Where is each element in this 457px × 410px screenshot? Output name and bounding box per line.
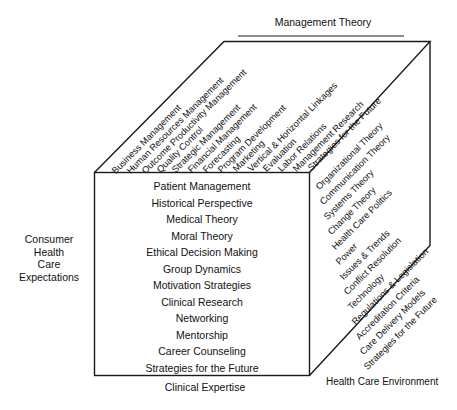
- left-caption-line-1: Consumer: [6, 233, 92, 246]
- top-face-caption: Management Theory: [243, 16, 403, 29]
- left-caption-line-4: Expectations: [6, 271, 92, 284]
- front-face-item: Group Dynamics: [163, 261, 241, 278]
- front-face-item: Medical Theory: [166, 211, 238, 228]
- bottom-face-caption: Clinical Expertise: [130, 381, 280, 394]
- front-face-item: Strategies for the Future: [145, 360, 258, 377]
- front-face-item: Patient Management: [154, 178, 251, 195]
- cube-diagram: Management Theory Clinical Expertise Con…: [0, 0, 457, 410]
- left-axis-caption: Consumer Health Care Expectations: [6, 233, 92, 283]
- right-face-edge-text: Health Care Environment: [326, 377, 438, 387]
- front-face-item: Clinical Research: [161, 294, 243, 311]
- left-caption-line-3: Care: [6, 258, 92, 271]
- front-face-item: Motivation Strategies: [153, 277, 251, 294]
- front-face-item: Networking: [176, 310, 229, 327]
- front-face-item-list: Patient ManagementHistorical Perspective…: [96, 176, 308, 374]
- front-face-item: Historical Perspective: [152, 195, 253, 212]
- front-face-item: Career Counseling: [158, 343, 246, 360]
- front-face-item: Moral Theory: [171, 228, 233, 245]
- left-caption-line-2: Health: [6, 246, 92, 259]
- front-face-item: Ethical Decision Making: [146, 244, 257, 261]
- front-face-item: Mentorship: [176, 327, 228, 344]
